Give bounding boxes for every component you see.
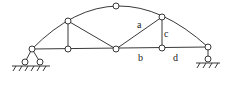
left-ground-hatch <box>13 66 46 71</box>
right-ground-hatch <box>197 63 218 68</box>
hinge-node <box>65 18 71 24</box>
label-d: d <box>173 52 178 63</box>
support-pin <box>22 59 28 65</box>
hinge-node <box>159 45 165 51</box>
label-c: c <box>164 28 169 39</box>
diagonal-left <box>68 21 116 49</box>
hinge-node <box>29 46 35 52</box>
support-pin <box>37 59 43 65</box>
hinge-node <box>113 46 119 52</box>
hinge-node <box>159 14 165 20</box>
bottom-chord <box>32 47 208 49</box>
hinge-node <box>205 44 211 50</box>
label-a: a <box>137 19 142 30</box>
hinge-node <box>113 3 119 9</box>
support-pin <box>205 56 211 62</box>
label-b: b <box>138 52 143 63</box>
truss-diagram: a b c d <box>0 0 225 85</box>
arch-curve <box>32 6 208 49</box>
hinge-node <box>65 46 71 52</box>
